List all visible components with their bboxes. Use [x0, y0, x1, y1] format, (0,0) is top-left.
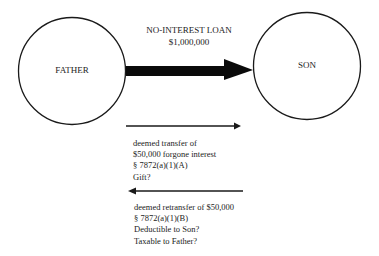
retransfer-line: § 7872(a)(1)(B) — [134, 213, 234, 224]
son-label: SON — [298, 60, 316, 71]
loan-title: NO-INTEREST LOAN — [146, 25, 232, 36]
transfer-line: $50,000 forgone interest — [133, 149, 216, 160]
loan-amount: $1,000,000 — [169, 37, 210, 48]
transfer-line: § 7872(a)(1)(A) — [133, 160, 216, 171]
retransfer-line: deemed retransfer of $50,000 — [134, 202, 234, 213]
retransfer-arrow — [128, 188, 243, 195]
father-label: FATHER — [55, 65, 88, 76]
retransfer-description: deemed retransfer of $50,000 § 7872(a)(1… — [134, 202, 234, 247]
loan-arrow — [126, 59, 253, 80]
transfer-line: Gift? — [133, 172, 216, 183]
transfer-arrow — [126, 123, 241, 130]
retransfer-line: Taxable to Father? — [134, 236, 234, 247]
transfer-line: deemed transfer of — [133, 138, 216, 149]
retransfer-line: Deductible to Son? — [134, 224, 234, 235]
transfer-description: deemed transfer of $50,000 forgone inter… — [133, 138, 216, 183]
